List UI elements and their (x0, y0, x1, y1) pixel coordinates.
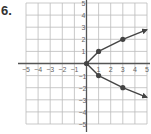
x-tick-label: −2 (58, 66, 66, 73)
y-tick-label: −2 (79, 85, 87, 92)
data-point (120, 85, 125, 90)
y-tick-label: −4 (79, 109, 87, 116)
x-tick-label: 5 (145, 66, 149, 73)
data-point (84, 61, 89, 66)
y-tick-label: 4 (82, 12, 86, 19)
y-tick-label: −5 (79, 121, 87, 128)
graph: −5−4−3−2−11234554321−1−2−3−4−5 (0, 0, 151, 134)
x-tick-label: −5 (22, 66, 30, 73)
y-tick-label: −3 (79, 97, 87, 104)
curve-branch (87, 64, 148, 98)
y-tick-label: 2 (82, 36, 86, 43)
x-tick-label: −4 (34, 66, 42, 73)
data-point (120, 37, 125, 42)
data-point (96, 73, 101, 78)
curve-branch (87, 30, 148, 64)
data-point (96, 49, 101, 54)
y-tick-label: 1 (82, 48, 86, 55)
x-tick-label: 1 (97, 66, 101, 73)
x-tick-label: −1 (70, 66, 78, 73)
x-tick-label: 2 (109, 66, 113, 73)
x-tick-label: 4 (133, 66, 137, 73)
y-tick-label: 5 (82, 0, 86, 7)
y-tick-label: 3 (82, 24, 86, 31)
x-tick-label: −3 (46, 66, 54, 73)
x-tick-label: 3 (121, 66, 125, 73)
y-tick-label: −1 (79, 73, 87, 80)
